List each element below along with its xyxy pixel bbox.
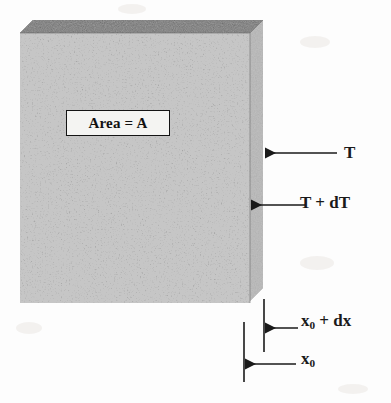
label-temperature-T: T — [344, 144, 355, 161]
slab-right-face — [250, 20, 263, 301]
label-position-x0: x0 — [301, 350, 315, 367]
slab-top-face — [20, 20, 263, 33]
label-x0-plus-dx-variable: x — [301, 311, 310, 330]
label-temperature-T-plus-dT: T + dT — [300, 194, 350, 211]
area-callout-label: Area = A — [88, 115, 147, 132]
area-callout-box: Area = A — [66, 110, 170, 136]
label-x0-subscript: 0 — [310, 357, 316, 369]
slab-front-face — [20, 33, 250, 303]
label-position-x0-plus-dx: x0 + dx — [301, 312, 351, 329]
label-x0-plus-dx-subscript: 0 — [310, 319, 316, 331]
label-x0-variable: x — [301, 349, 310, 368]
thermal-conduction-diagram: Area = A T T + dT x0 + dx x0 — [0, 0, 391, 403]
label-x0-plus-dx-suffix: + dx — [315, 311, 351, 330]
